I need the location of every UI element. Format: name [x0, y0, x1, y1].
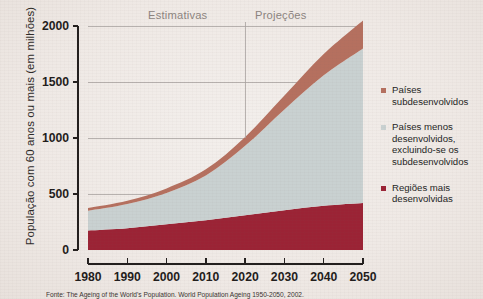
x-tick-label-2010: 2010: [192, 270, 219, 284]
y-tick-label-2000: 2000: [0, 19, 69, 33]
x-tick-label-2000: 2000: [153, 270, 180, 284]
legend-item-label: Países menos desenvolvidos, excluindo-se…: [392, 121, 481, 167]
x-tick-label-2030: 2030: [271, 270, 298, 284]
source-caption: Fonte: The Ageing of the World's Populat…: [46, 291, 476, 299]
y-tick-label-1000: 1000: [0, 131, 69, 145]
legend-item-label: Países subdesenvolvidos: [392, 84, 481, 107]
y-tick-label-1500: 1500: [0, 75, 69, 89]
legend-item-label: Regiões mais desenvolvidas: [392, 182, 481, 205]
x-tick-label-1990: 1990: [114, 270, 141, 284]
x-tick-label-1980: 1980: [74, 270, 101, 284]
legend-item[interactable]: Países menos desenvolvidos, excluindo-se…: [381, 121, 481, 167]
legend-item[interactable]: Países subdesenvolvidos: [381, 84, 481, 107]
y-tick-label-500: 500: [0, 187, 69, 201]
legend: Países subdesenvolvidosPaíses menos dese…: [381, 84, 481, 219]
legend-swatch-icon: [381, 186, 386, 191]
legend-item[interactable]: Regiões mais desenvolvidas: [381, 182, 481, 205]
legend-swatch-icon: [381, 88, 386, 93]
population-ageing-area-chart: População com 60 anos ou mais (em milhõe…: [0, 0, 483, 299]
x-tick-label-2020: 2020: [232, 270, 259, 284]
x-tick-label-2050: 2050: [349, 270, 376, 284]
x-tick-label-2040: 2040: [310, 270, 337, 284]
y-tick-label-0: 0: [0, 243, 69, 257]
stacked-areas: [88, 20, 363, 250]
legend-swatch-icon: [381, 125, 386, 130]
